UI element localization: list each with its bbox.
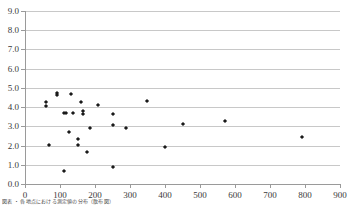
x-axis-tick (235, 184, 236, 188)
y-axis-label: 2.0 (0, 142, 19, 151)
x-axis-tick (130, 184, 131, 188)
gridline-y (25, 49, 340, 50)
data-point (222, 118, 226, 122)
x-axis-tick (25, 184, 26, 188)
y-axis-label: 3.0 (0, 122, 19, 131)
y-axis-tick (21, 30, 25, 31)
gridline-y (25, 107, 340, 108)
x-axis-tick (165, 184, 166, 188)
y-axis-tick (21, 69, 25, 70)
x-axis-label: 800 (285, 191, 325, 200)
gridline-y (25, 146, 340, 147)
x-axis-tick (305, 184, 306, 188)
data-point (54, 92, 58, 96)
y-axis-tick (21, 11, 25, 12)
x-axis-label: 600 (215, 191, 255, 200)
gridline-y (25, 11, 340, 12)
y-axis-label: 4.0 (0, 103, 19, 112)
x-axis-tick (340, 184, 341, 188)
gridline-y (25, 88, 340, 89)
y-axis-label: 7.0 (0, 45, 19, 54)
x-axis-tick (270, 184, 271, 188)
gridline-y (25, 165, 340, 166)
gridline-y (25, 30, 340, 31)
plot-area (25, 11, 340, 184)
x-axis-label: 700 (250, 191, 290, 200)
y-axis-tick (21, 49, 25, 50)
x-axis-label: 500 (180, 191, 220, 200)
y-axis-label: 8.0 (0, 26, 19, 35)
y-axis-tick (21, 165, 25, 166)
figure-caption: 図表 ・ 各地点における測定値の分布（散布図） (2, 199, 182, 207)
x-axis-label: 900 (320, 191, 353, 200)
y-axis-line (25, 11, 26, 185)
x-axis-tick (95, 184, 96, 188)
y-axis-tick (21, 107, 25, 108)
x-axis-tick (200, 184, 201, 188)
scatter-chart: 0.01.02.03.04.05.06.07.08.09.0 010020030… (0, 0, 353, 209)
y-axis-label: 5.0 (0, 84, 19, 93)
x-axis-tick (60, 184, 61, 188)
y-axis-tick (21, 146, 25, 147)
gridline-y (25, 69, 340, 70)
x-axis-line (25, 184, 340, 185)
y-axis-label: 6.0 (0, 65, 19, 74)
y-axis-label: 9.0 (0, 7, 19, 16)
y-axis-tick (21, 88, 25, 89)
y-axis-label: 1.0 (0, 161, 19, 170)
y-axis-label: 0.0 (0, 180, 19, 189)
y-axis-tick (21, 126, 25, 127)
